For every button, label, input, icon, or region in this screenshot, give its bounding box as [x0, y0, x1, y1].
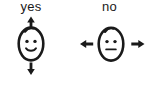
head-outline-yes	[19, 28, 44, 61]
eyes-yes	[25, 40, 36, 43]
arrow-left-icon	[80, 40, 93, 48]
panel-no: no	[74, 0, 149, 85]
yes-figure-graphic	[0, 0, 68, 85]
eye-left-no	[105, 40, 108, 43]
hair-curl-icon-no	[105, 28, 113, 32]
hair-curl-icon-yes	[25, 28, 33, 32]
gesture-diagram: yes	[0, 0, 149, 85]
eye-left-yes	[25, 40, 28, 43]
no-figure-graphic	[74, 0, 149, 85]
panel-yes: yes	[0, 0, 68, 85]
arrow-down-icon	[27, 63, 35, 76]
arrow-right-icon	[131, 40, 144, 48]
eye-right-yes	[33, 40, 36, 43]
eye-right-no	[113, 40, 116, 43]
mouth-smile-yes	[26, 48, 36, 51]
eyes-no	[105, 40, 116, 43]
head-outline-no	[99, 28, 124, 61]
